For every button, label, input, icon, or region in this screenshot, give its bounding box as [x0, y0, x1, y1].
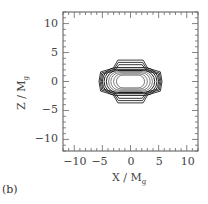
y-axis-title: Z / Mg: [15, 76, 30, 110]
x-axis-title: X / Mg: [112, 171, 146, 186]
axis-ticks: [63, 12, 198, 151]
y-tick-label: 5: [51, 46, 58, 59]
contour-plot: [0, 0, 208, 204]
x-tick-label: −10: [63, 155, 86, 168]
x-tick-label: 5: [156, 155, 163, 168]
y-tick-label: 10: [44, 17, 58, 30]
panel-label: (b): [2, 183, 18, 196]
y-tick-label: 0: [51, 75, 58, 88]
x-tick-label: 10: [181, 155, 195, 168]
y-axis-label: Z / M: [15, 80, 28, 110]
y-axis-subscript: g: [22, 76, 30, 80]
x-axis-label: X / M: [112, 171, 142, 184]
x-axis-subscript: g: [142, 178, 146, 186]
y-tick-label: −10: [35, 132, 58, 145]
contour-lines: [99, 60, 162, 103]
x-tick-label: 0: [128, 155, 135, 168]
plot-frame: [63, 12, 198, 151]
x-tick-label: −5: [91, 155, 107, 168]
y-tick-label: −5: [42, 103, 58, 116]
